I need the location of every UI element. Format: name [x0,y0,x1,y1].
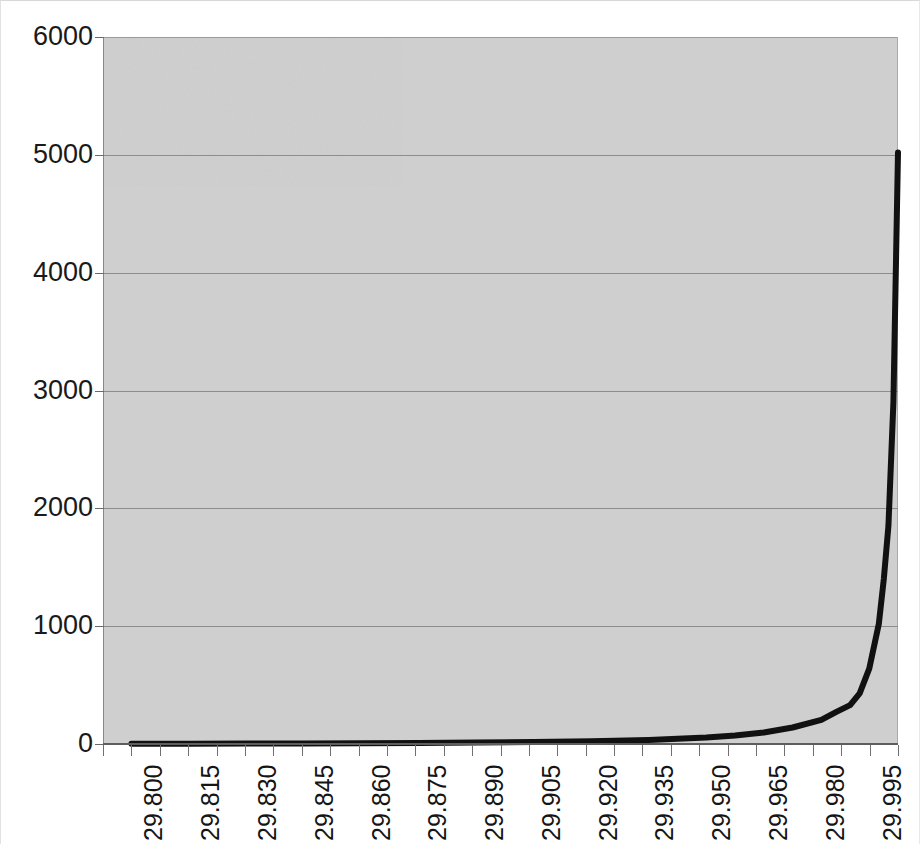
x-axis-label: 29.815 [198,765,223,841]
series-1-line [131,152,898,743]
y-axis-label: 1000 [7,612,93,639]
y-axis-label: 5000 [7,141,93,168]
x-axis-label: 29.830 [255,765,280,841]
x-axis-label: 29.950 [709,765,734,841]
y-axis-label: 4000 [7,259,93,286]
x-axis-label: 29.935 [652,765,677,841]
x-axis: 29.80029.81529.83029.84529.86029.87529.8… [1,753,920,844]
y-axis-label: 6000 [7,23,93,50]
y-axis: 0100020003000400050006000 [1,1,93,844]
x-axis-label: 29.875 [425,765,450,841]
x-axis-label: 29.845 [312,765,337,841]
x-axis-label: 29.905 [539,765,564,841]
x-axis-label: 29.995 [880,765,905,841]
x-axis-label: 29.920 [596,765,621,841]
x-axis-label: 29.890 [482,765,507,841]
x-axis-label: 29.860 [369,765,394,841]
x-axis-label: 29.800 [141,765,166,841]
chart-container: 0100020003000400050006000 29.80029.81529… [0,0,920,844]
data-line-series [103,37,898,744]
x-axis-label: 29.965 [766,765,791,841]
y-axis-label: 3000 [7,377,93,404]
x-axis-label: 29.980 [823,765,848,841]
y-axis-label: 2000 [7,494,93,521]
